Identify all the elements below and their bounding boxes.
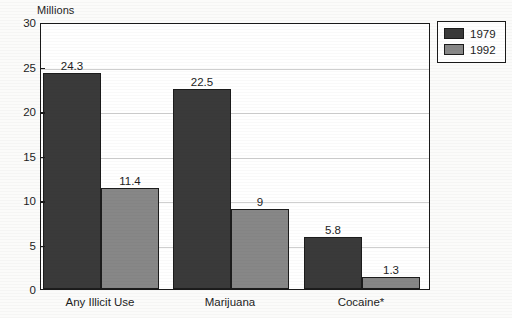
chart-legend: 19791992 [437,21,506,63]
category-label: Cocaine* [338,296,385,308]
category-label: Marijuana [205,296,256,308]
legend-item-1992: 1992 [444,42,500,57]
y-tick-label: 0 [2,284,36,296]
y-tick-label: 15 [2,151,36,163]
bar-1979-cocaine [304,237,362,289]
bar-value-label: 9 [257,196,263,208]
bar-1992-any-illicit-use [101,188,159,289]
category-label: Any Illicit Use [65,296,134,308]
y-tick-label: 5 [2,240,36,252]
y-axis-tick-labels: 051015202530 [0,23,36,290]
y-tick-label: 20 [2,106,36,118]
y-tick-label: 10 [2,195,36,207]
plot-inner: 24.311.422.595.81.3 [41,24,429,289]
bar-value-label: 22.5 [191,76,213,88]
bar-1992-cocaine [362,277,420,289]
bar-1992-marijuana [231,209,289,289]
y-tick-mark [40,246,45,248]
bar-1979-marijuana [173,89,231,289]
bar-value-label: 5.8 [325,224,341,236]
y-tick-mark [40,68,45,70]
gridline [41,69,429,70]
bar-value-label: 11.4 [119,175,141,187]
y-axis-title: Millions [37,4,74,16]
plot-area: 24.311.422.595.81.3 [40,23,430,290]
chart-page: Millions 051015202530 24.311.422.595.81.… [0,0,512,318]
y-tick-label: 30 [2,17,36,29]
y-tick-mark [40,157,45,159]
bar-value-label: 24.3 [61,60,83,72]
legend-label: 1992 [470,44,496,56]
legend-item-1979: 1979 [444,26,500,41]
bar-value-label: 1.3 [383,264,399,276]
legend-label: 1979 [470,28,496,40]
y-tick-mark [40,201,45,203]
bar-1979-any-illicit-use [43,73,101,289]
y-tick-label: 25 [2,62,36,74]
legend-swatch-icon [444,44,464,55]
legend-swatch-icon [444,28,464,39]
y-tick-mark [40,112,45,114]
